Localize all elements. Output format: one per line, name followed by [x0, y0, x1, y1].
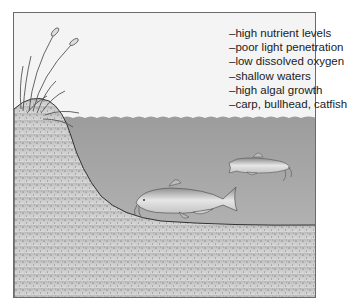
characteristic-item: –low dissolved oxygen [229, 54, 347, 68]
characteristic-item: –high algal growth [229, 83, 347, 97]
characteristic-item: –poor light penetration [229, 40, 347, 54]
characteristics-list: –high nutrient levels –poor light penetr… [229, 26, 347, 111]
characteristic-item: –carp, bullhead, catfish [229, 97, 347, 111]
characteristic-item: –shallow waters [229, 69, 347, 83]
characteristic-item: –high nutrient levels [229, 26, 347, 40]
